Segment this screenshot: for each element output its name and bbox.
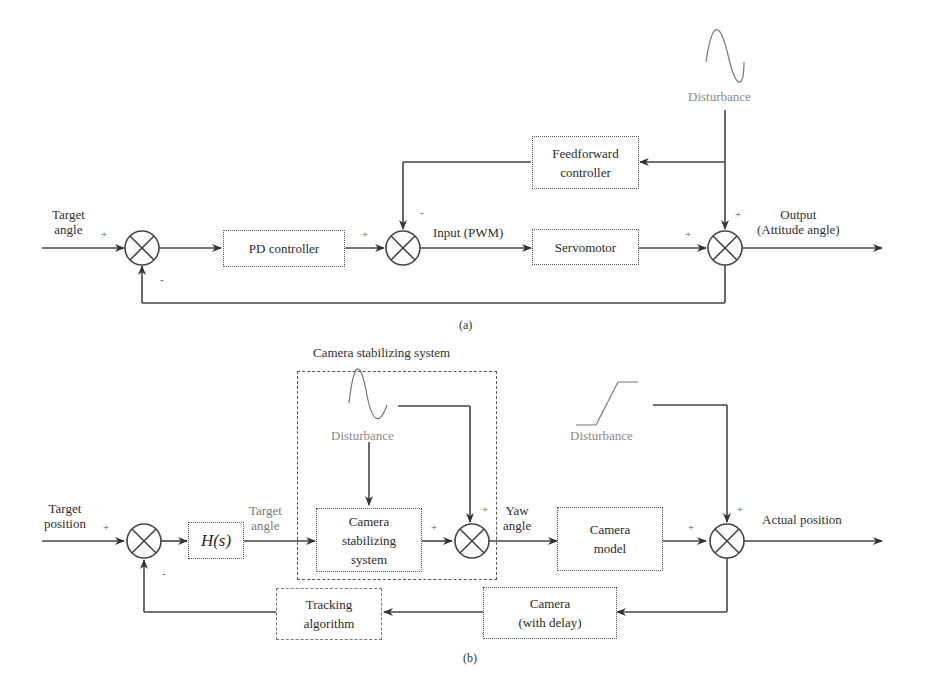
target-angle-b-label: Target angle <box>249 503 282 533</box>
sign-b-sum2-dist: + <box>482 503 488 515</box>
sign-b-sum1-fb: - <box>162 567 166 579</box>
caption-b: (b) <box>463 651 477 666</box>
target-position-line1: Target <box>44 501 86 516</box>
servomotor-block: Servomotor <box>532 229 639 265</box>
target-angle-b-line1: Target <box>249 503 282 518</box>
camera-delay-line1: Camera <box>518 594 581 613</box>
yaw-angle-line2: angle <box>503 518 531 533</box>
target-angle-line2: angle <box>52 222 85 237</box>
camera-stabilizing-system-block: Camera stabilizing system <box>316 508 422 572</box>
camera-delay-line2: (with delay) <box>518 613 581 632</box>
disturbance-ramp-label: Disturbance <box>570 428 633 443</box>
h-s-block: H(s) <box>188 522 244 559</box>
tracking-line2: algorithm <box>304 614 355 633</box>
sign-a-sum1-fb: - <box>160 273 164 285</box>
camera-model-block: Camera model <box>557 507 663 571</box>
caption-a: (a) <box>459 318 472 333</box>
target-angle-b-line2: angle <box>249 518 282 533</box>
pd-controller-block: PD controller <box>223 230 345 267</box>
target-angle-line1: Target <box>52 207 85 222</box>
sign-b-sum1-in: + <box>103 521 109 533</box>
input-pwm-label: Input (PWM) <box>433 225 503 240</box>
sign-a-sum1-in: + <box>101 228 107 240</box>
tracking-line1: Tracking <box>304 595 355 614</box>
sign-a-sum3-dist: + <box>735 208 741 220</box>
camera-with-delay-block: Camera (with delay) <box>483 587 617 639</box>
yaw-angle-label: Yaw angle <box>503 503 531 533</box>
sign-b-sum3-in: + <box>688 521 694 533</box>
stab-line3: system <box>342 550 396 569</box>
diagram-wires <box>0 0 928 697</box>
output-attitude-label: Output (Attitude angle) <box>757 207 840 237</box>
output-line2: (Attitude angle) <box>757 222 840 237</box>
feedforward-line2: controller <box>552 163 618 182</box>
sign-a-sum2-in: + <box>362 228 368 240</box>
actual-position-label: Actual position <box>762 512 842 527</box>
output-line1: Output <box>757 207 840 222</box>
yaw-angle-line1: Yaw <box>503 503 531 518</box>
sign-a-sum2-ff: - <box>420 206 424 218</box>
stab-line2: stabilizing <box>342 531 396 550</box>
camera-model-line1: Camera <box>590 520 630 539</box>
camera-stabilizing-group-title: Camera stabilizing system <box>313 345 450 360</box>
sign-b-sum2-in: + <box>431 521 437 533</box>
stab-line1: Camera <box>342 512 396 531</box>
disturbance-a-label: Disturbance <box>688 89 751 104</box>
h-s-label: H(s) <box>201 531 231 550</box>
feedforward-controller-block: Feedforward controller <box>532 136 639 189</box>
target-angle-label: Target angle <box>52 207 85 237</box>
servomotor-label: Servomotor <box>555 238 616 257</box>
target-position-line2: position <box>44 516 86 531</box>
disturbance-sine-label: Disturbance <box>331 428 394 443</box>
target-position-label: Target position <box>44 501 86 531</box>
camera-model-line2: model <box>590 539 630 558</box>
feedforward-line1: Feedforward <box>552 144 618 163</box>
sign-a-sum3-in: + <box>685 228 691 240</box>
sign-b-sum3-dist: + <box>737 503 743 515</box>
pd-controller-label: PD controller <box>249 239 319 258</box>
tracking-algorithm-block: Tracking algorithm <box>276 588 382 640</box>
